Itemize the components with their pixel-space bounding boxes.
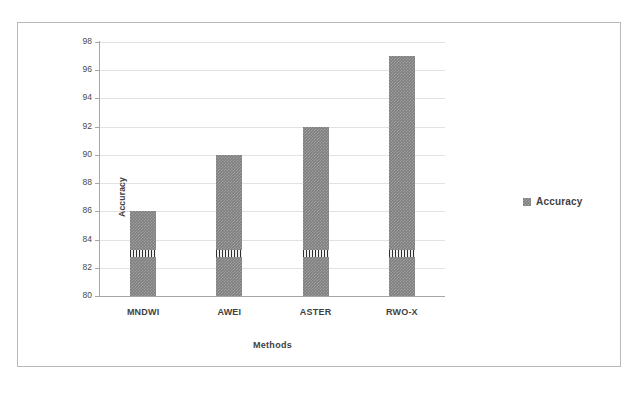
x-axis-line: [100, 296, 445, 297]
bar-chart-figure: 80828486889092949698 Accuracy MNDWIAWEIA…: [0, 0, 641, 397]
y-axis-tick: [95, 211, 99, 212]
y-axis-tick: [95, 127, 99, 128]
y-axis-tick: [95, 98, 99, 99]
x-axis-tick-label: ASTER: [271, 307, 361, 317]
y-axis-tick-label: 80: [62, 291, 92, 300]
y-axis-tick-label: 82: [62, 263, 92, 272]
y-axis-tick-label-group: 80828486889092949698: [58, 0, 92, 397]
bar: [389, 56, 415, 296]
y-axis-tick: [95, 70, 99, 71]
y-axis-tick: [95, 296, 99, 297]
y-axis-tick: [95, 155, 99, 156]
x-axis-tick-label: RWO-X: [357, 307, 447, 317]
y-axis-tick: [95, 268, 99, 269]
y-axis-tick-label: 94: [62, 93, 92, 102]
bar-texture-band: [303, 250, 329, 257]
y-axis-tick: [95, 183, 99, 184]
y-axis-tick-label: 92: [62, 122, 92, 131]
y-axis-tick: [95, 240, 99, 241]
y-axis-tick-label: 96: [62, 65, 92, 74]
plot-area: Accuracy: [100, 42, 445, 296]
y-axis-title: Accuracy: [117, 152, 127, 242]
y-axis-tick-label: 90: [62, 150, 92, 159]
bar-texture-band: [216, 250, 242, 257]
chart-legend: Accuracy: [523, 196, 583, 207]
bar: [303, 127, 329, 296]
x-axis-title: Methods: [100, 340, 445, 350]
legend-label-accuracy: Accuracy: [536, 196, 583, 207]
x-axis-tick-label: MNDWI: [98, 307, 188, 317]
y-axis-tick-label: 84: [62, 235, 92, 244]
y-axis-tick-label: 88: [62, 178, 92, 187]
bar: [130, 211, 156, 296]
bar: [216, 155, 242, 296]
y-axis-tick-label: 98: [62, 37, 92, 46]
y-axis-tick-label: 86: [62, 206, 92, 215]
legend-swatch-accuracy: [523, 198, 531, 206]
gridline: [100, 42, 445, 43]
y-axis-tick: [95, 42, 99, 43]
bar-texture-band: [130, 250, 156, 257]
bar-texture-band: [389, 250, 415, 257]
x-axis-tick-label: AWEI: [184, 307, 274, 317]
